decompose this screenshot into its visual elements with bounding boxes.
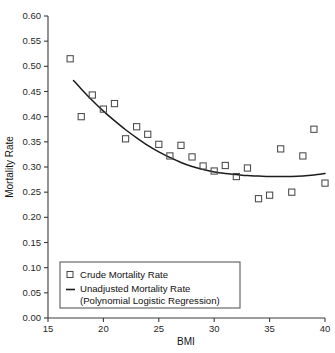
y-tick-label: 0.50 — [23, 60, 42, 71]
legend-label-regression-note: (Polynomial Logistic Regression) — [80, 295, 220, 306]
chart-container: 0.000.050.100.150.200.250.300.350.400.45… — [0, 0, 335, 353]
y-tick-label: 0.35 — [23, 136, 42, 147]
y-tick-label: 0.60 — [23, 10, 42, 21]
data-point-marker — [189, 154, 195, 160]
y-tick-label: 0.55 — [23, 35, 42, 46]
x-tick-label: 30 — [209, 323, 220, 334]
x-axis-group: 152025303540 BMI — [43, 318, 331, 347]
x-axis-ticks: 152025303540 — [43, 318, 331, 334]
data-point-marker — [278, 146, 284, 152]
legend: Crude Mortality Rate Unadjusted Mortalit… — [60, 262, 240, 308]
data-point-marker — [289, 189, 295, 195]
x-tick-label: 20 — [98, 323, 109, 334]
data-point-marker — [244, 165, 250, 171]
y-tick-label: 0.40 — [23, 111, 42, 122]
y-tick-label: 0.45 — [23, 86, 42, 97]
data-point-marker — [78, 114, 84, 120]
y-tick-label: 0.00 — [23, 312, 42, 323]
y-tick-label: 0.05 — [23, 287, 42, 298]
data-point-marker — [178, 142, 184, 148]
data-point-marker — [111, 100, 117, 106]
data-point-marker — [145, 131, 151, 137]
data-point-marker — [311, 126, 317, 132]
y-tick-label: 0.30 — [23, 161, 42, 172]
x-tick-label: 35 — [264, 323, 275, 334]
y-axis-ticks: 0.000.050.100.150.200.250.300.350.400.45… — [23, 10, 49, 323]
mortality-vs-bmi-scatter-chart: 0.000.050.100.150.200.250.300.350.400.45… — [0, 0, 335, 353]
data-point-marker — [322, 180, 328, 186]
legend-label-crude: Crude Mortality Rate — [80, 269, 168, 280]
data-point-marker — [134, 124, 140, 130]
data-point-marker — [156, 141, 162, 147]
x-tick-label: 15 — [43, 323, 54, 334]
x-axis-title: BMI — [177, 336, 195, 347]
y-tick-label: 0.25 — [23, 186, 42, 197]
scatter-markers-group — [67, 56, 328, 202]
data-point-marker — [67, 56, 73, 62]
data-point-marker — [300, 153, 306, 159]
data-point-marker — [200, 163, 206, 169]
y-axis-group: 0.000.050.100.150.200.250.300.350.400.45… — [4, 10, 48, 323]
data-point-marker — [255, 196, 261, 202]
x-tick-label: 25 — [154, 323, 165, 334]
data-point-marker — [122, 136, 128, 142]
data-point-marker — [89, 92, 95, 98]
y-tick-label: 0.15 — [23, 237, 42, 248]
y-axis-title: Mortality Rate — [4, 136, 15, 198]
data-point-marker — [267, 192, 273, 198]
x-tick-label: 40 — [320, 323, 331, 334]
data-point-marker — [222, 162, 228, 168]
y-tick-label: 0.10 — [23, 262, 42, 273]
legend-label-unadjusted: Unadjusted Mortality Rate — [80, 283, 190, 294]
regression-curve — [73, 80, 325, 176]
y-tick-label: 0.20 — [23, 211, 42, 222]
